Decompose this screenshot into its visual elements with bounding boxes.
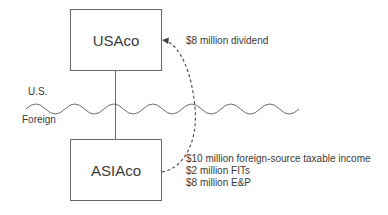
us-region-label: U.S. xyxy=(28,86,47,98)
foreign-region-label: Foreign xyxy=(22,114,56,126)
note-taxable-income: $10 million foreign-source taxable incom… xyxy=(186,153,371,165)
asiaco-notes: $10 million foreign-source taxable incom… xyxy=(186,153,371,189)
asiaco-box: ASIAco xyxy=(70,139,162,201)
arrowhead-icon xyxy=(162,38,169,45)
note-fits: $2 million FITs xyxy=(186,165,371,177)
dividend-label: $8 million dividend xyxy=(186,35,268,47)
usaco-box: USAco xyxy=(70,9,162,71)
usaco-label: USAco xyxy=(93,32,140,49)
note-ep: $8 million E&P xyxy=(186,177,371,189)
asiaco-label: ASIAco xyxy=(91,162,141,179)
border-wave-line xyxy=(26,104,299,114)
